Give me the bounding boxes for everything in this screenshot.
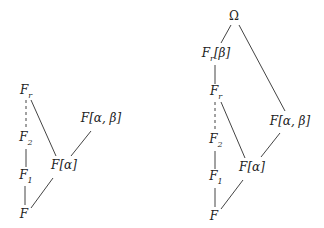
- node-right-f2: F2: [209, 133, 222, 148]
- node-suffix: [α, β]: [89, 111, 121, 125]
- node-left-f2: F2: [19, 131, 32, 146]
- node-left-f-alpha-beta: F[α, β]: [81, 112, 121, 124]
- edge-right-fa-fab: [261, 133, 280, 157]
- node-sub: 2: [28, 138, 33, 147]
- node-right-f: F: [210, 210, 218, 222]
- node-suffix: [α]: [247, 160, 264, 174]
- node-suffix: [β]: [214, 46, 230, 60]
- node-suffix: [α]: [59, 158, 76, 172]
- node-suffix: [α, β]: [278, 114, 310, 128]
- node-sub: 2: [218, 140, 223, 149]
- node-base: F: [210, 209, 218, 223]
- edge-right-omega-frb: [221, 25, 231, 43]
- node-base: F: [20, 207, 28, 221]
- node-left-fr: Fr: [20, 84, 32, 99]
- edge-right-f-fa: [221, 180, 243, 209]
- node-right-f-alpha-beta: F[α, β]: [270, 115, 310, 127]
- edge-left-f-fa: [31, 178, 53, 208]
- edge-right-omega-fab: [239, 25, 285, 111]
- node-sub: 1: [28, 176, 33, 185]
- node-sub: 1: [218, 177, 223, 186]
- node-left-f-alpha: F[α]: [51, 159, 77, 171]
- node-base: Ω: [229, 9, 239, 23]
- node-right-f1: F1: [209, 170, 222, 185]
- node-right-f-alpha: F[α]: [239, 161, 265, 173]
- edge-left-fa-fab: [71, 131, 91, 156]
- node-left-f: F: [20, 208, 28, 220]
- node-sub: r: [28, 91, 32, 100]
- node-right-omega: Ω: [229, 10, 239, 22]
- edge-left-fr-fa: [31, 100, 56, 156]
- node-left-f1: F1: [19, 169, 32, 184]
- edge-right-fr-fa: [221, 102, 245, 158]
- node-sub: r: [218, 92, 222, 101]
- node-right-fr-beta: Fr[β]: [202, 47, 230, 62]
- node-right-fr: Fr: [210, 85, 222, 100]
